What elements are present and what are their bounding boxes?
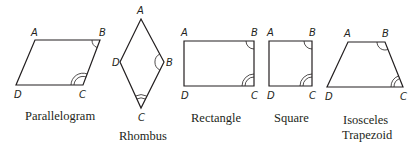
angle-mark-c-outer	[300, 74, 312, 86]
angle-mark-b	[246, 41, 254, 49]
vertex-label-c: C	[400, 91, 407, 102]
rectangle: A B C D Rectangle	[180, 27, 258, 125]
vertex-label-a: A	[343, 28, 351, 39]
vertex-label-c: C	[79, 89, 86, 100]
vertex-label-c: C	[138, 112, 145, 123]
rectangle-outline	[184, 41, 254, 86]
rhombus: A B C D Rhombus	[112, 5, 173, 143]
vertex-label-a: A	[180, 27, 188, 38]
angle-mark-c-outer	[391, 76, 399, 87]
square: A B C D Square	[266, 27, 316, 125]
vertex-label-a: A	[136, 5, 144, 16]
vertex-label-c: C	[309, 90, 316, 101]
caption-square: Square	[274, 111, 309, 125]
angle-mark-c-inner	[394, 79, 400, 87]
angle-mark-b	[155, 54, 160, 70]
quadrilaterals-diagram: A B C D Parallelogram A B C D Rhombus A …	[0, 0, 419, 150]
angle-mark-c-inner	[245, 77, 254, 86]
caption-rectangle: Rectangle	[191, 111, 241, 125]
isosceles-trapezoid: A B C D Isosceles Trapezoid	[325, 28, 407, 142]
vertex-label-b: B	[309, 27, 316, 38]
angle-mark-c-inner	[303, 77, 312, 86]
vertex-label-d: D	[14, 89, 22, 100]
angle-mark-c-inner	[137, 98, 146, 99]
vertex-label-a: A	[266, 27, 274, 38]
angle-mark-b	[304, 41, 312, 49]
trapezoid-outline	[327, 42, 403, 87]
caption-parallelogram: Parallelogram	[25, 109, 95, 123]
vertex-label-d: D	[325, 91, 333, 102]
vertex-label-a: A	[30, 27, 38, 38]
caption-trapezoid: Trapezoid	[342, 128, 393, 142]
vertex-label-d: D	[112, 57, 120, 68]
parallelogram: A B C D Parallelogram	[14, 27, 106, 123]
vertex-label-d: D	[181, 90, 189, 101]
angle-mark-b	[92, 40, 97, 48]
vertex-label-b: B	[251, 27, 258, 38]
angle-mark-c-outer	[242, 74, 254, 86]
vertex-label-c: C	[251, 90, 258, 101]
caption-rhombus: Rhombus	[119, 129, 167, 143]
vertex-label-b: B	[99, 27, 106, 38]
parallelogram-outline	[16, 40, 100, 85]
angle-mark-c-outer	[136, 95, 147, 96]
vertex-label-d: D	[267, 90, 275, 101]
caption-isosceles: Isosceles	[343, 113, 388, 127]
vertex-label-b: B	[382, 28, 389, 39]
vertex-label-b: B	[166, 57, 173, 68]
